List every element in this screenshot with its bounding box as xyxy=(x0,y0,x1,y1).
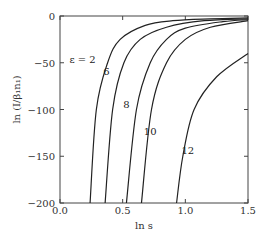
y-tick-label: −100 xyxy=(28,105,55,116)
plot-frame xyxy=(60,16,248,203)
curve-label: 8 xyxy=(123,99,129,110)
x-tick-label: 0.5 xyxy=(115,205,131,216)
curve-label: 12 xyxy=(181,145,194,156)
y-tick-label: −50 xyxy=(34,58,55,69)
y-tick-label: 0 xyxy=(49,11,55,22)
y-tick-label: −200 xyxy=(28,198,55,209)
curve-eps-2 xyxy=(90,18,248,203)
curve-eps-8 xyxy=(126,20,248,203)
chart: 0.00.51.01.50−50−100−150−200 ε = 2681012… xyxy=(0,0,264,239)
x-axis-title: ln s xyxy=(135,220,153,231)
x-tick-label: 1.0 xyxy=(177,205,193,216)
curve-label: 10 xyxy=(144,126,157,137)
curve-label: ε = 2 xyxy=(69,54,95,65)
x-tick-label: 1.5 xyxy=(240,205,256,216)
y-axis-title: ln (I/β₁n₁) xyxy=(11,75,22,123)
curve-label: 6 xyxy=(103,66,109,77)
curve-eps-12 xyxy=(177,53,248,203)
curve-eps-6 xyxy=(105,19,248,203)
curve-eps-10 xyxy=(141,21,248,203)
y-tick-label: −150 xyxy=(28,151,55,162)
